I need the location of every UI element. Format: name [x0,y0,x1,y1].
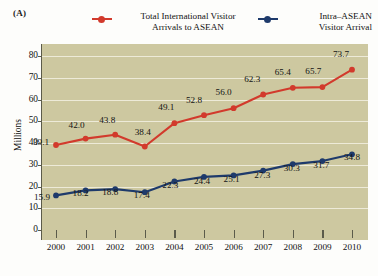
plot-area: 39.142.043.838.449.152.856.062.365.465.7… [42,44,368,240]
data-label-total: 62.3 [235,74,269,84]
panel-label: (A) [13,8,26,18]
y-tick-label: 30 [4,159,38,169]
data-point-marker [231,105,237,111]
y-tick-mark [38,208,42,209]
x-tick-mark [322,230,323,238]
legend-item-intra-asean: Intra–ASEAN Visitor Arrival [262,11,372,32]
data-point-marker [142,144,148,150]
legend-label-line2: Arrivals to ASEAN [114,22,262,33]
chart-legend: Total International Visitor Arrivals to … [100,11,372,41]
legend-label-line2: Visitor Arrival [262,22,372,33]
data-point-marker [349,67,355,73]
data-label-intra: 18.8 [93,187,127,197]
x-tick-mark [174,230,175,238]
x-tick-mark [145,230,146,238]
data-label-intra: 17.4 [125,190,159,200]
y-tick-mark [38,187,42,188]
data-point-marker [290,85,296,91]
data-label-total: 65.4 [266,67,300,77]
y-tick-label: 20 [4,181,38,191]
y-tick-label: 60 [4,94,38,104]
x-tick-mark [115,230,116,238]
data-label-intra: 25.1 [215,174,249,184]
data-label-total: 43.8 [90,115,124,125]
y-tick-label: 70 [4,72,38,82]
data-label-intra: 31.7 [304,160,338,170]
data-label-intra: 34.8 [335,152,369,162]
x-tick-label: 2010 [334,242,370,252]
y-tick-label: 40 [4,137,38,147]
chart-figure: (A) Total International Visitor Arrivals… [0,0,378,276]
data-label-total: 56.0 [207,87,241,97]
data-point-marker [201,112,207,118]
data-label-intra: 22.3 [153,180,187,190]
data-label-total: 73.7 [324,49,358,59]
x-tick-mark [352,230,353,238]
data-point-marker [112,132,118,138]
y-tick-mark [38,100,42,101]
y-tick-mark [38,143,42,144]
x-tick-mark [263,230,264,238]
data-point-marker [172,120,178,126]
data-label-total: 38.4 [126,127,160,137]
x-tick-mark [86,230,87,238]
x-axis-labels: 2000200120022003200420052006200720082009… [42,240,368,262]
y-tick-mark [38,230,42,231]
x-tick-mark [56,230,57,238]
y-tick-mark [38,78,42,79]
y-tick-mark [38,165,42,166]
data-label-intra: 15.9 [25,192,59,202]
legend-item-total-international: Total International Visitor Arrivals to … [114,11,262,32]
y-tick-label: 80 [4,50,38,60]
x-tick-mark [204,230,205,238]
legend-label-line1: Intra–ASEAN [262,11,372,22]
data-label-total: 42.0 [60,120,94,130]
line-marker-icon [258,15,278,23]
y-tick-label: 50 [4,115,38,125]
x-tick-mark [293,230,294,238]
y-tick-mark [38,121,42,122]
legend-label-line1: Total International Visitor [114,11,262,22]
series-line-total [56,70,352,147]
data-point-marker [83,136,89,142]
data-point-marker [320,84,326,90]
y-tick-label: 10 [4,202,38,212]
data-label-total: 65.7 [296,66,330,76]
data-point-marker [260,92,266,98]
y-tick-mark [38,56,42,57]
y-tick-label: 0 [4,224,38,234]
line-marker-icon [92,15,112,23]
x-tick-mark [234,230,235,238]
